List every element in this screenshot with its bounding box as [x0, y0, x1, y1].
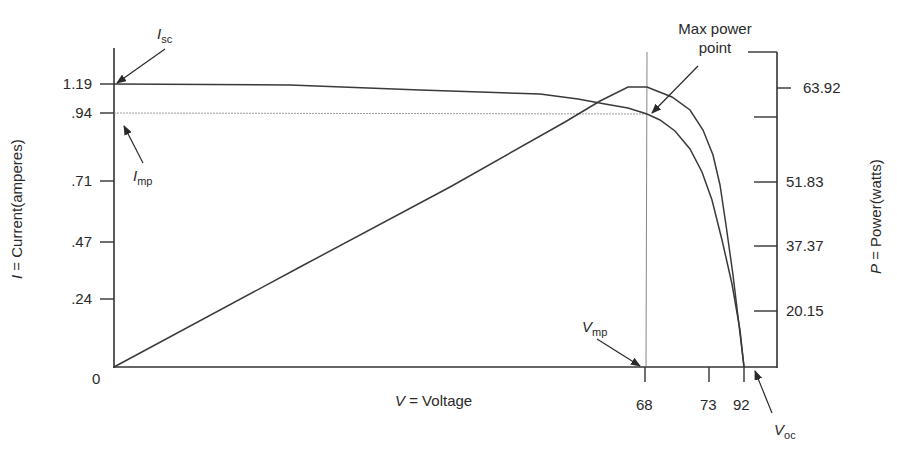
pv-curve [114, 87, 744, 367]
origin-label: 0 [92, 371, 100, 386]
imp-arrow [124, 126, 143, 163]
right-tick-63-92: 63.92 [803, 80, 841, 95]
left-tick-1-19: 1.19 [32, 76, 92, 91]
x-axis-title: V = Voltage [395, 393, 472, 408]
x-tick-92: 92 [733, 397, 750, 412]
imp-reference-line [114, 113, 647, 114]
x-tick-68: 68 [636, 397, 653, 412]
vmp-label: Vmp [582, 319, 607, 338]
x-ticks [645, 367, 744, 382]
y-left-axis-title: I = Current(amperes) [9, 139, 24, 279]
max-power-point-label: Max power point [665, 20, 765, 58]
left-tick-0-47: .47 [32, 234, 92, 249]
x-tick-73: 73 [700, 397, 717, 412]
right-tick-51-83: 51.83 [786, 174, 824, 189]
isc-arrow [117, 49, 165, 83]
iv-curve [114, 84, 744, 367]
left-tick-0-71: .71 [32, 173, 92, 188]
vmp-arrow [597, 339, 640, 366]
right-tick-20-15: 20.15 [786, 303, 824, 318]
voc-label: Voc [774, 422, 796, 441]
right-ticks [754, 88, 791, 311]
left-tick-0-94: .94 [32, 105, 92, 120]
vmp-reference-line [646, 52, 647, 367]
isc-label: Isc [157, 26, 172, 45]
y-right-axis-title: P = Power(watts) [868, 159, 883, 274]
voc-arrow [755, 371, 772, 413]
iv-pv-chart [0, 0, 897, 457]
left-ticks [100, 84, 114, 299]
imp-label: Imp [133, 168, 152, 187]
mpp-arrow [652, 66, 698, 113]
right-tick-37-37: 37.37 [786, 238, 824, 253]
left-tick-0-24: .24 [32, 291, 92, 306]
